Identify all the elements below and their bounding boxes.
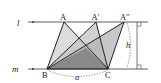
- point-A-prime-label: A′: [92, 12, 100, 22]
- line-l-label: l: [17, 18, 20, 28]
- line-m-marker: [32, 68, 34, 70]
- right-angle-top: [137, 22, 141, 26]
- line-m-label: m: [12, 64, 19, 74]
- point-C-label: C: [105, 70, 111, 80]
- point-B-label: B: [42, 70, 48, 80]
- line-l-marker: [32, 21, 34, 23]
- height-label: h: [126, 40, 130, 50]
- point-A-double-prime-label: A″: [120, 12, 130, 22]
- right-angle-bottom: [137, 65, 141, 69]
- parallel-lines-triangle-diagram: l m A A′ A″ B C a h: [0, 0, 161, 83]
- base-label: a: [75, 72, 79, 82]
- point-A-label: A: [60, 12, 67, 22]
